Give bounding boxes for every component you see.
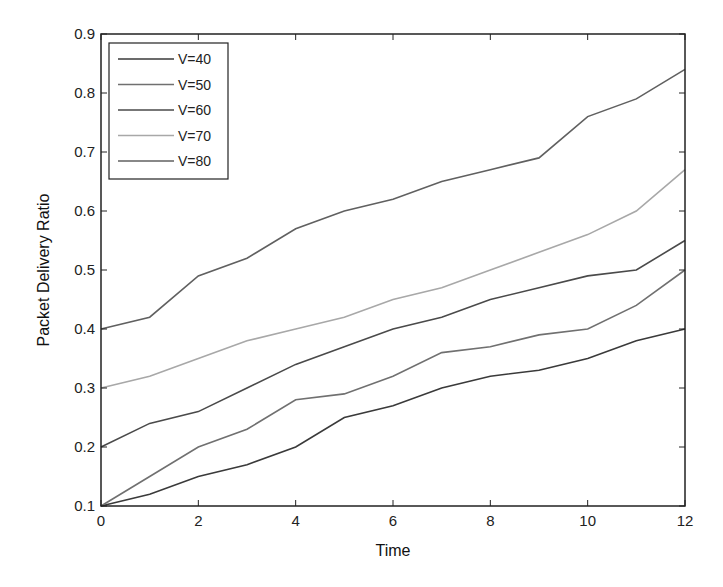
series-line-v-40 xyxy=(101,329,685,506)
x-tick-label: 0 xyxy=(97,512,105,529)
y-tick-label: 0.1 xyxy=(74,497,95,514)
y-tick-label: 0.8 xyxy=(74,84,95,101)
legend-label: V=60 xyxy=(178,102,211,118)
y-tick-label: 0.2 xyxy=(74,438,95,455)
x-tick-label: 2 xyxy=(194,512,202,529)
x-tick-label: 6 xyxy=(389,512,397,529)
legend-label: V=80 xyxy=(178,153,211,169)
legend-label: V=50 xyxy=(178,77,211,93)
y-axis-label: Packet Delivery Ratio xyxy=(35,193,52,346)
x-tick-label: 4 xyxy=(291,512,299,529)
x-tick-label: 10 xyxy=(579,512,596,529)
series-line-v-60 xyxy=(101,241,685,448)
line-chart: 024681012 0.10.20.30.40.50.60.70.80.9 Ti… xyxy=(0,0,723,587)
y-tick-label: 0.7 xyxy=(74,143,95,160)
y-tick-label: 0.9 xyxy=(74,25,95,42)
legend: V=40V=50V=60V=70V=80 xyxy=(109,43,228,179)
y-tick-label: 0.4 xyxy=(74,320,95,337)
series-line-v-50 xyxy=(101,270,685,506)
y-tick-label: 0.5 xyxy=(74,261,95,278)
legend-label: V=40 xyxy=(178,51,211,67)
y-tick-label: 0.6 xyxy=(74,202,95,219)
y-tick-label: 0.3 xyxy=(74,379,95,396)
x-tick-label: 12 xyxy=(677,512,694,529)
x-tick-label: 8 xyxy=(486,512,494,529)
x-axis-label: Time xyxy=(376,542,411,559)
legend-label: V=70 xyxy=(178,128,211,144)
